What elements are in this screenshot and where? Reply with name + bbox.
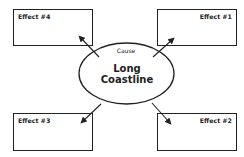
arrow-to-effect-3 — [82, 104, 101, 122]
arrow-to-effect-2 — [152, 103, 170, 123]
cause-label: Cause — [106, 47, 146, 54]
cause-title-line2: Coastline — [86, 74, 168, 85]
cause-title: Long Coastline — [86, 63, 168, 85]
cause-title-line1: Long — [86, 63, 168, 74]
